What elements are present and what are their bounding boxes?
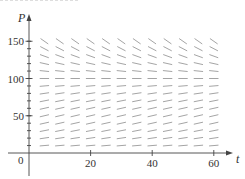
x-axis-label: t (236, 152, 240, 166)
y-tick-label: 100 (8, 73, 25, 85)
slope-segment (163, 115, 171, 117)
slope-segment (56, 137, 65, 138)
slope-segment (117, 130, 125, 132)
slope-segment (194, 137, 203, 138)
slope-segment (179, 86, 188, 87)
slope-segment (102, 63, 110, 65)
slope-segment (86, 137, 95, 138)
slope-segment (117, 63, 125, 65)
slope-segment (210, 145, 219, 146)
slope-segment (133, 47, 141, 51)
slope-segment (40, 107, 48, 109)
slope-segment (149, 39, 156, 44)
slope-segment (210, 100, 218, 102)
slope-field-chart: 50100150 204060 t P 0 (0, 0, 245, 179)
slope-segment (56, 39, 63, 44)
slope-segment (41, 39, 48, 44)
slope-segment (148, 86, 157, 87)
slope-segment (133, 100, 141, 102)
slope-segment (210, 39, 217, 44)
slope-segment (117, 115, 125, 117)
slope-segment (71, 122, 79, 124)
slope-segment (56, 93, 65, 94)
slope-segment (86, 71, 95, 72)
slope-segment (133, 71, 142, 72)
slope-segment (56, 71, 65, 72)
slope-segment (148, 47, 156, 51)
slope-segment (133, 107, 141, 109)
slope-segment (133, 55, 141, 58)
slope-segment (163, 86, 172, 87)
slope-segment (71, 137, 80, 138)
slope-segment (210, 137, 219, 138)
slope-segment (102, 107, 110, 109)
origin-label: 0 (18, 154, 24, 166)
slope-segment (102, 55, 110, 58)
slope-segment (71, 115, 79, 117)
slope-segment (102, 93, 111, 94)
slope-segment (40, 86, 49, 87)
slope-segment (148, 122, 156, 124)
slope-segment (71, 71, 80, 72)
slope-segment (163, 145, 172, 146)
slope-segment (56, 100, 64, 102)
slope-segment (117, 55, 125, 58)
slope-segment (148, 63, 156, 65)
slope-segment (148, 145, 157, 146)
slope-segment (117, 100, 125, 102)
slope-segment (210, 107, 218, 109)
slope-segment (102, 137, 111, 138)
slope-segment (40, 100, 48, 102)
slope-segment (179, 145, 188, 146)
slope-segment (40, 55, 48, 58)
slope-segment (56, 115, 64, 117)
slope-segment (194, 115, 202, 117)
slope-segment (102, 130, 110, 132)
y-tick-label: 50 (13, 110, 25, 122)
slope-segment (195, 47, 203, 51)
slope-segment (210, 115, 218, 117)
slope-segment (179, 107, 187, 109)
slope-segment (179, 100, 187, 102)
slope-segment (194, 86, 203, 87)
slope-segment (179, 39, 186, 44)
slope-segment (163, 122, 171, 124)
slope-segment (117, 71, 126, 72)
slope-segment (194, 145, 203, 146)
y-axis-arrow-icon (27, 14, 32, 21)
slope-segment (148, 93, 157, 94)
slope-segment (56, 63, 64, 65)
slope-segment (148, 71, 157, 72)
slope-segment (71, 145, 80, 146)
slope-segment (164, 55, 172, 58)
slope-segment (56, 55, 64, 58)
slope-segment (164, 39, 171, 44)
slope-segment (71, 86, 80, 87)
x-tick-label: 60 (208, 157, 220, 169)
slope-segment (117, 86, 126, 87)
slope-segment (56, 107, 64, 109)
slope-segment (148, 100, 156, 102)
slope-segments (40, 39, 218, 146)
slope-segment (56, 130, 64, 132)
x-axis-arrow-icon (226, 151, 233, 156)
slope-segment (71, 107, 79, 109)
slope-segment (40, 63, 48, 65)
slope-segment (194, 93, 203, 94)
slope-segment (163, 63, 171, 65)
slope-segment (210, 86, 219, 87)
slope-segment (194, 63, 202, 65)
slope-segment (163, 137, 172, 138)
slope-segment (179, 55, 187, 58)
slope-segment (40, 122, 48, 124)
slope-segment (133, 93, 142, 94)
slope-segment (179, 130, 187, 132)
slope-segment (194, 55, 202, 58)
slope-segment (133, 115, 141, 117)
slope-segment (194, 130, 202, 132)
y-tick-label: 150 (8, 35, 25, 47)
slope-segment (56, 122, 64, 124)
slope-segment (102, 145, 111, 146)
x-tick-label: 40 (147, 157, 159, 169)
slope-segment (179, 63, 187, 65)
